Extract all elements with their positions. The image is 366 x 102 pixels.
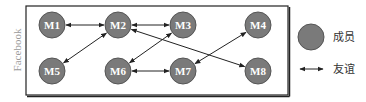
member-label: M2 xyxy=(110,19,126,31)
container-label: Facebook xyxy=(11,28,23,71)
member-label: M7 xyxy=(175,65,191,77)
member-label: M3 xyxy=(175,19,191,31)
member-node-m3: M3 xyxy=(170,12,196,38)
member-node-m6: M6 xyxy=(105,58,131,84)
social-network-diagram: Facebook M1M2M3M4M5M6M7M8 成员 友谊 xyxy=(0,0,366,102)
legend: 成员 友谊 xyxy=(298,24,355,76)
member-node-m1: M1 xyxy=(39,12,65,38)
member-label: M5 xyxy=(44,65,60,77)
member-node-m4: M4 xyxy=(245,12,271,38)
member-label: M6 xyxy=(110,65,126,77)
legend-member-label: 成员 xyxy=(333,31,355,44)
member-label: M4 xyxy=(250,19,266,31)
member-node-m2: M2 xyxy=(105,12,131,38)
member-node-m7: M7 xyxy=(170,58,196,84)
legend-member-icon xyxy=(298,24,324,50)
member-label: M8 xyxy=(250,65,266,77)
member-node-m8: M8 xyxy=(245,58,271,84)
member-label: M1 xyxy=(44,19,60,31)
member-node-m5: M5 xyxy=(39,58,65,84)
legend-friendship-label: 友谊 xyxy=(333,62,355,76)
